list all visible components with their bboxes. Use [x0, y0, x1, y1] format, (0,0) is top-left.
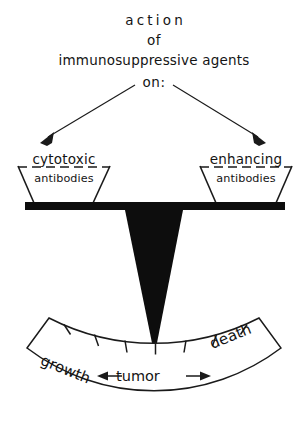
- right-arrowhead-icon: [252, 132, 266, 146]
- left-arrowhead-icon: [40, 132, 54, 146]
- title-line-agents: immunosuppressive agents: [0, 52, 308, 68]
- left-pan-label: cytotoxic: [14, 151, 114, 167]
- pointer-needle: [125, 210, 183, 348]
- right-pan-label: enhancing: [196, 151, 296, 167]
- divergence-arrows: [40, 85, 266, 146]
- gauge-label-tumor: tumor: [116, 368, 160, 384]
- title-line-of: of: [0, 32, 308, 48]
- immunosuppression-balance-figure: action of immunosuppressive agents on: c…: [0, 0, 308, 424]
- title-line-on: on:: [0, 74, 308, 90]
- title-line-action: action: [0, 12, 308, 28]
- right-pan-contents-label: antibodies: [200, 172, 292, 185]
- left-arrow-shaft: [48, 85, 135, 137]
- balance-beam: [25, 202, 285, 210]
- right-arrow-shaft: [173, 85, 258, 137]
- left-pan-contents-label: antibodies: [18, 172, 110, 185]
